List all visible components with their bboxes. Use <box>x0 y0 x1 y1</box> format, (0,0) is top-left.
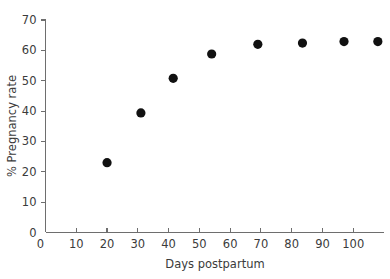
data-point <box>339 37 348 46</box>
data-point <box>136 108 145 117</box>
y-tick-label: 0 <box>29 226 36 240</box>
pregnancy-rate-scatter-chart: 010203040506070 0102030405060708090100 D… <box>0 0 390 279</box>
plot-area: 010203040506070 0102030405060708090100 D… <box>0 0 390 279</box>
x-axis-title: Days postpartum <box>165 257 264 271</box>
y-tick-label: 30 <box>22 134 37 148</box>
data-point <box>298 38 307 47</box>
data-point <box>102 158 111 167</box>
x-tick-label: 20 <box>100 237 115 251</box>
y-tick-label: 50 <box>22 74 37 88</box>
x-tick-label: 30 <box>130 237 145 251</box>
x-tick-label: 0 <box>37 237 44 251</box>
x-axis-ticks: 0102030405060708090100 <box>37 228 364 251</box>
y-axis-ticks: 010203040506070 <box>22 13 46 240</box>
x-tick-label: 60 <box>223 237 238 251</box>
y-tick-label: 70 <box>22 13 37 27</box>
x-tick-label: 70 <box>254 237 269 251</box>
y-axis-title: % Pregnancy rate <box>5 75 19 177</box>
x-tick-label: 50 <box>192 237 207 251</box>
x-tick-label: 90 <box>315 237 330 251</box>
y-tick-label: 20 <box>22 165 37 179</box>
data-point <box>253 40 262 49</box>
data-points <box>102 37 382 167</box>
data-point <box>207 49 216 58</box>
x-tick-label: 10 <box>69 237 84 251</box>
y-tick-label: 40 <box>22 104 37 118</box>
x-tick-label: 80 <box>284 237 299 251</box>
y-tick-label: 10 <box>22 195 37 209</box>
y-tick-label: 60 <box>22 43 37 57</box>
x-tick-label: 40 <box>161 237 176 251</box>
data-point <box>373 37 382 46</box>
x-tick-label: 100 <box>342 237 364 251</box>
data-point <box>169 74 178 83</box>
